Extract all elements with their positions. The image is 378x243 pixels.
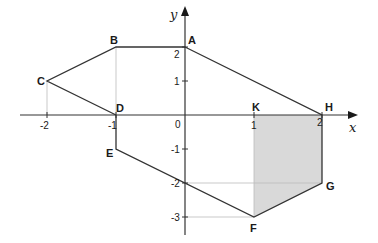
point-label-g: G <box>326 180 335 192</box>
point-label-a: A <box>188 34 196 46</box>
x-tick--2: -2 <box>40 120 49 131</box>
y-axis-arrow-icon <box>181 6 189 16</box>
point-label-c: C <box>37 75 45 87</box>
y-tick--3: -3 <box>171 212 180 223</box>
y-tick-1: 1 <box>174 76 180 87</box>
point-label-e: E <box>106 147 113 159</box>
x-tick-2: 2 <box>317 117 323 128</box>
point-label-f: F <box>250 222 257 234</box>
y-tick-2: 2 <box>174 49 180 60</box>
coordinate-diagram: -2 -1 1 2 0 2 1 -1 -2 -3 x y A B C D E F… <box>0 0 378 243</box>
x-tick--1: -1 <box>108 120 117 131</box>
y-axis-label: y <box>169 7 178 22</box>
point-label-b: B <box>110 34 118 46</box>
y-tick--2: -2 <box>171 178 180 189</box>
y-tick--1: -1 <box>171 144 180 155</box>
point-label-h: H <box>325 101 333 113</box>
shaded-region-khgf <box>254 115 322 217</box>
x-axis-arrow-icon <box>348 111 358 119</box>
x-tick-1: 1 <box>251 120 257 131</box>
origin-label: 0 <box>175 119 181 130</box>
point-label-d: D <box>116 102 124 114</box>
x-axis-label: x <box>349 120 357 135</box>
point-label-k: K <box>252 101 260 113</box>
